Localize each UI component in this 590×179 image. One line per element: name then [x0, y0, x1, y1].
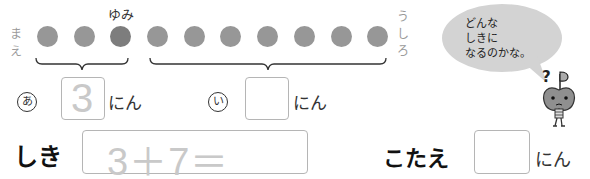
brace-group-a [34, 56, 130, 76]
person-dot [367, 26, 388, 47]
marker-i: い [208, 92, 228, 112]
back-label-char: う [396, 10, 410, 24]
back-label: う し ろ [396, 10, 410, 58]
person-dot [331, 26, 352, 47]
front-label-char: え [9, 45, 23, 59]
expression-box[interactable]: 3＋7＝ [82, 130, 308, 174]
front-label-char: ま [9, 27, 23, 41]
expression-label: しき [14, 137, 62, 172]
person-dot [37, 26, 58, 47]
person-dot [257, 26, 278, 47]
group-i-unit: にん [293, 89, 327, 114]
back-label-char: し [396, 27, 410, 41]
front-label: ま え [9, 27, 23, 59]
bubble-line: しきに [465, 31, 531, 46]
person-dot-yumi [110, 26, 131, 47]
answer-input[interactable] [474, 130, 530, 174]
group-a-value: 3 [71, 76, 93, 121]
group-a-unit: にん [108, 89, 142, 114]
brace-group-i [148, 56, 388, 76]
marker-a: あ [17, 92, 37, 112]
speech-bubble-text: どんな しきに なるのかな。 [465, 16, 531, 61]
person-dot [184, 26, 205, 47]
person-dot [294, 26, 315, 47]
bubble-line: どんな [465, 16, 531, 31]
person-dot [220, 26, 241, 47]
apple-character-icon: ? [540, 68, 580, 130]
yumi-label: ゆみ [108, 4, 134, 23]
group-a-box[interactable]: 3 [61, 77, 105, 120]
answer-label: こたえ [383, 140, 449, 172]
person-dot [74, 26, 95, 47]
people-row [37, 26, 404, 47]
back-label-char: ろ [396, 44, 410, 58]
bubble-line: なるのかな。 [465, 46, 531, 61]
svg-text:?: ? [542, 68, 551, 86]
group-i-input[interactable] [245, 77, 289, 120]
answer-unit: にん [535, 145, 571, 171]
person-dot [147, 26, 168, 47]
expression-value: 3＋7＝ [107, 131, 229, 179]
